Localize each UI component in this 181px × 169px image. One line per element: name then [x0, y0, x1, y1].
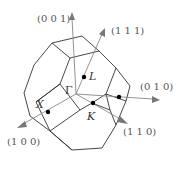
- label-K: K: [86, 110, 96, 123]
- axis-010-line: [76, 94, 153, 99]
- point-K: [91, 101, 95, 105]
- axis-100-line: [23, 94, 76, 124]
- axis-111-line: [76, 34, 102, 94]
- arrow-head-110-icon: [117, 116, 128, 124]
- arrow-head-010-icon: [152, 96, 160, 103]
- label-100: (1 0 0): [7, 136, 40, 147]
- brillouin-zone-diagram: (0 0 1) (1 1 1) (0 1 0) (1 1 0) (1 0 0) …: [0, 0, 181, 169]
- label-X: X: [35, 98, 45, 111]
- point-010: [117, 95, 121, 99]
- arrow-head-111-icon: [99, 28, 105, 37]
- label-L: L: [88, 70, 96, 83]
- label-110: (1 1 0): [123, 126, 156, 137]
- point-L: [82, 75, 86, 79]
- label-gamma: Γ: [65, 84, 73, 97]
- axis-110-line: [76, 94, 122, 120]
- label-111: (1 1 1): [111, 25, 144, 36]
- label-010: (0 1 0): [140, 81, 173, 92]
- arrow-head-100-icon: [17, 121, 27, 128]
- axis-001-line: [72, 18, 76, 94]
- label-001: (0 0 1): [37, 13, 70, 24]
- point-X: [46, 110, 50, 114]
- polyhedron-edges: [24, 36, 130, 150]
